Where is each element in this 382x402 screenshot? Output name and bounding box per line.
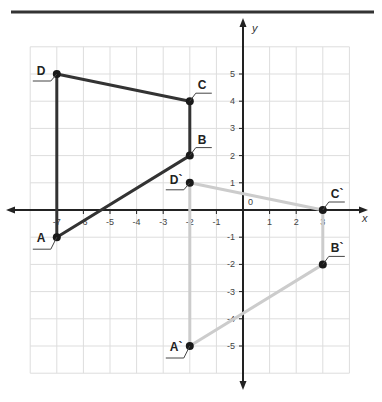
- x-tick-label: -5: [106, 217, 114, 227]
- x-tick-label: 1: [267, 217, 272, 227]
- x-tick-label: -1: [212, 217, 220, 227]
- vertex-label: A: [37, 231, 46, 245]
- y-tick-label: -1: [227, 232, 235, 242]
- y-tick-label: 3: [230, 123, 235, 133]
- origin-label: 0: [248, 197, 253, 207]
- shape-image: A`B`C`D`: [166, 173, 345, 358]
- x-tick-label: -3: [159, 217, 167, 227]
- vertex-label: D`: [170, 173, 183, 187]
- x-axis-label: x: [361, 212, 368, 224]
- y-axis-down-arrow-icon: [240, 381, 247, 390]
- x-axis-left-arrow-icon: [6, 207, 15, 214]
- x-tick-label: 2: [294, 217, 299, 227]
- vertex-label: A`: [170, 340, 183, 354]
- y-tick-label: -3: [227, 287, 235, 297]
- vertex-label: B`: [331, 241, 344, 255]
- coordinate-plane-diagram: -7-6-5-4-3-2-112354321-1-2-3-4-5 ABCDA`B…: [0, 0, 382, 402]
- y-axis-label: y: [251, 22, 259, 34]
- vertex-label: C`: [331, 187, 344, 201]
- x-tick-label: -4: [133, 217, 141, 227]
- y-tick-label: 1: [230, 178, 235, 188]
- y-axis-up-arrow-icon: [240, 18, 247, 27]
- y-tick-label: 5: [230, 69, 235, 79]
- vertex-label: C: [198, 78, 207, 92]
- vertex-label: D: [37, 64, 46, 78]
- y-tick-label: -5: [227, 341, 235, 351]
- y-tick-label: 4: [230, 96, 235, 106]
- y-tick-label: 2: [230, 151, 235, 161]
- vertex-label: B: [198, 133, 207, 147]
- y-tick-label: -2: [227, 259, 235, 269]
